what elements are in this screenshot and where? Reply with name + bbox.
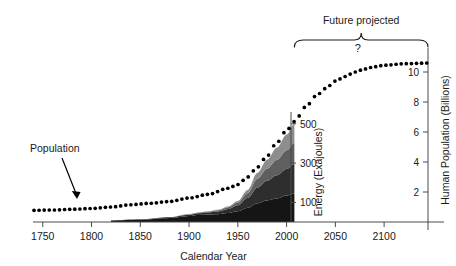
population-data-point [144,202,148,206]
chart-svg: 17501800185019001950200020502100 1003005… [0,0,456,266]
population-data-point [313,95,317,99]
population-data-point [277,139,281,143]
x-axis-ticks: 17501800185019001950200020502100 [31,222,396,242]
population-data-point [359,68,363,72]
future-projected-label: Future projected [323,14,400,26]
population-data-point [348,72,352,76]
population-data-point [32,208,36,212]
population-data-point [389,63,393,67]
population-tick-label: 6 [413,127,419,138]
population-data-point [200,193,204,197]
brace-path [294,33,428,47]
population-tick-label: 8 [413,97,419,108]
population-data-point [226,186,230,190]
population-data-point [149,201,153,205]
leader-arrowhead [72,191,81,199]
population-data-point [404,62,408,66]
x-tick-label: 2050 [324,230,348,242]
population-data-point [272,144,276,148]
population-data-point [73,207,77,211]
population-data-point [78,207,82,211]
population-data-point [394,62,398,66]
population-data-point [129,203,133,207]
population-data-point [165,200,169,204]
population-tick-label: 2 [413,187,419,198]
population-data-point [262,158,266,162]
population-data-point [221,188,225,192]
population-data-point [297,114,301,118]
population-axis-ticks: 246810 [408,67,428,198]
population-data-point [47,208,51,212]
population-data-point [282,131,286,135]
x-tick-label: 1750 [31,230,55,242]
population-data-point [109,205,113,209]
population-data-point [231,185,235,189]
population-data-point [251,169,255,173]
population-data-point [185,196,189,200]
population-data-point [180,197,184,201]
population-data-point [114,205,118,209]
leader-line [62,158,77,196]
population-data-point [420,61,424,65]
population-data-point [211,192,215,196]
population-data-point [236,183,240,187]
population-data-point [139,202,143,206]
x-tick-label: 2000 [275,230,299,242]
population-data-point [68,207,72,211]
population-data-point [318,92,322,96]
population-data-point [343,75,347,79]
population-data-point [63,208,67,212]
population-data-point [206,192,210,196]
population-tick-label: 10 [408,67,420,78]
energy-axis-title: Energy (Exajoules) [312,128,324,217]
population-data-point [425,61,429,65]
population-data-point [160,200,164,204]
population-data-point [302,106,306,110]
population-data-point [88,207,92,211]
population-data-point [410,62,414,66]
population-annotation-leader [62,158,81,199]
population-dotted-series [32,61,428,212]
population-data-point [323,87,327,91]
population-data-point [155,201,159,205]
energy-population-chart: 17501800185019001950200020502100 1003005… [0,0,456,266]
population-data-point [83,207,87,211]
population-data-point [292,120,296,124]
population-data-point [216,190,220,194]
population-data-point [134,203,138,207]
future-projected-brace [294,33,428,47]
population-data-point [241,178,245,182]
population-data-point [374,65,378,69]
x-axis-title: Calendar Year [180,250,247,262]
population-label: Population [30,142,80,154]
population-data-point [53,208,57,212]
x-tick-label: 1900 [177,230,201,242]
x-tick-label: 1800 [80,230,104,242]
population-data-point [37,208,41,212]
population-data-point [257,165,261,169]
population-data-point [246,175,250,179]
population-data-point [42,208,46,212]
population-data-point [353,70,357,74]
population-tick-label: 4 [413,157,419,168]
x-tick-label: 1850 [129,230,153,242]
population-data-point [364,67,368,71]
population-data-point [379,64,383,68]
question-mark-annotation: ? [355,42,361,54]
population-data-point [384,63,388,67]
population-data-point [328,84,332,88]
population-data-point [93,207,97,211]
population-data-point [58,208,62,212]
population-data-point [190,196,194,200]
x-tick-label: 1950 [226,230,250,242]
population-data-point [119,204,123,208]
population-data-point [195,195,199,199]
population-data-point [415,61,419,65]
population-data-point [308,102,312,106]
x-tick-label: 2100 [372,230,396,242]
population-data-point [267,153,271,157]
population-data-point [333,79,337,83]
population-data-point [399,62,403,66]
population-data-point [175,199,179,203]
stacked-energy-areas [111,124,294,222]
